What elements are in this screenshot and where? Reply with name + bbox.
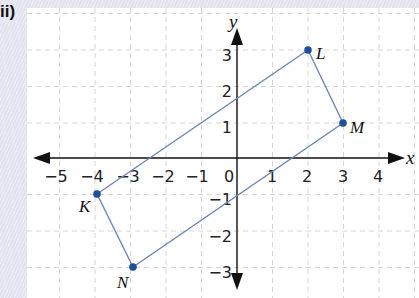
- y-tick: −3: [208, 263, 232, 282]
- x-axis: [33, 152, 405, 164]
- x-tick: −1: [185, 167, 209, 186]
- y-tick-labels: 3 2 1 −1 −2 −3: [208, 46, 232, 282]
- y-tick: −1: [208, 190, 232, 209]
- x-axis-right-arrow-icon: [388, 152, 405, 164]
- y-tick: 2: [222, 82, 232, 101]
- x-tick: −5: [44, 167, 68, 186]
- x-tick: −4: [80, 167, 104, 186]
- x-tick-labels: −5 −4 −3 −2 −1 0 1 2 3 4: [44, 167, 383, 186]
- point-m: [339, 119, 347, 127]
- x-tick: 4: [373, 167, 383, 186]
- y-tick: 3: [222, 46, 232, 65]
- x-axis-left-arrow-icon: [33, 152, 50, 164]
- x-tick: −3: [116, 167, 140, 186]
- y-tick: 1: [222, 118, 232, 137]
- y-axis-label: y: [227, 11, 238, 32]
- x-tick: 2: [302, 167, 312, 186]
- x-tick: −2: [151, 167, 175, 186]
- label-n: N: [116, 273, 130, 292]
- coordinate-plane: x y −5 −4 −3 −2 −1 0 1 2 3 4 3 2 1 −1 −2…: [0, 0, 419, 298]
- y-axis: [231, 28, 243, 290]
- label-l: L: [315, 44, 325, 63]
- y-axis-down-arrow-icon: [231, 273, 243, 290]
- x-tick: 3: [338, 167, 348, 186]
- point-k: [93, 190, 101, 198]
- x-axis-label: x: [405, 147, 415, 168]
- label-m: M: [349, 118, 365, 137]
- point-l: [304, 46, 312, 54]
- y-tick: −2: [208, 227, 232, 246]
- origin-label: 0: [224, 167, 234, 186]
- label-k: K: [78, 197, 92, 216]
- point-n: [129, 263, 137, 271]
